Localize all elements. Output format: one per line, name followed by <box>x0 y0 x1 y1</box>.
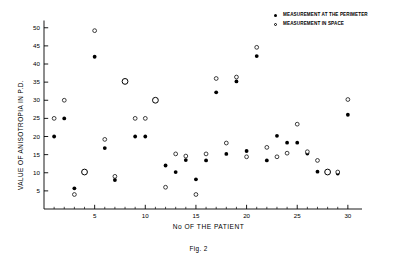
data-point-space <box>224 141 228 145</box>
y-axis-tick-label: 35 <box>18 78 40 85</box>
x-axis-title: No OF THE PATIENT <box>10 223 397 230</box>
x-axis-tick-label: 30 <box>338 212 358 219</box>
data-point-space <box>336 170 340 174</box>
data-point-perimeter <box>62 116 66 120</box>
data-point-perimeter <box>295 141 299 145</box>
y-axis-tick-label: 50 <box>18 24 40 31</box>
data-point-perimeter <box>164 164 168 168</box>
y-axis-tick-label: 15 <box>18 151 40 158</box>
data-point-space <box>143 116 147 120</box>
data-point-space <box>316 159 320 163</box>
data-point-space <box>184 154 188 158</box>
data-point-space <box>194 193 198 197</box>
y-axis-tick-label: 10 <box>18 169 40 176</box>
scatter-plot <box>0 0 397 278</box>
data-point-space <box>174 152 178 156</box>
data-point-space <box>52 116 56 120</box>
data-point-perimeter <box>113 178 117 182</box>
data-point-space <box>133 116 137 120</box>
data-point-space <box>122 79 128 85</box>
data-point-perimeter <box>224 152 228 156</box>
series-space <box>52 29 350 197</box>
figure-caption: Fig. 2 <box>0 245 397 252</box>
data-point-space <box>346 98 350 102</box>
legend-item-space: MEASUREMENT IN SPACE <box>274 20 394 29</box>
data-point-space <box>113 174 117 178</box>
data-point-space <box>93 29 97 33</box>
x-axis-tick-label: 15 <box>186 212 206 219</box>
data-point-perimeter <box>93 55 97 59</box>
data-point-space <box>103 138 107 142</box>
open-circle-icon <box>274 23 283 26</box>
data-point-space <box>62 98 66 102</box>
series-perimeter <box>52 54 350 190</box>
data-point-perimeter <box>214 90 218 94</box>
data-point-perimeter <box>204 159 208 163</box>
data-point-perimeter <box>103 146 107 150</box>
data-point-perimeter <box>245 149 249 153</box>
data-point-space <box>82 169 88 175</box>
y-axis-tick-label: 5 <box>18 187 40 194</box>
legend-label-space: MEASUREMENT IN SPACE <box>283 21 344 28</box>
x-axis-tick-label: 5 <box>85 212 105 219</box>
y-axis-tick-label: 30 <box>18 96 40 103</box>
data-point-space <box>285 151 289 155</box>
data-point-perimeter <box>133 135 137 139</box>
data-point-space <box>295 122 299 126</box>
data-point-space <box>275 155 279 159</box>
data-point-space <box>164 185 168 189</box>
data-point-perimeter <box>174 170 178 174</box>
data-point-perimeter <box>275 134 279 138</box>
data-point-space <box>204 152 208 156</box>
data-point-space <box>255 45 259 49</box>
data-point-perimeter <box>346 113 350 117</box>
data-point-perimeter <box>72 186 76 190</box>
data-point-space <box>305 150 309 154</box>
data-point-perimeter <box>143 135 147 139</box>
data-point-space <box>235 75 239 79</box>
x-axis-tick-label: 10 <box>135 212 155 219</box>
data-point-space <box>153 97 159 103</box>
y-axis-tick-label: 25 <box>18 114 40 121</box>
figure-container: MEASUREMENT AT THE PERIMETER MEASUREMENT… <box>0 0 397 278</box>
data-point-space <box>214 77 218 81</box>
chart-legend: MEASUREMENT AT THE PERIMETER MEASUREMENT… <box>274 11 394 29</box>
y-axis-tick-label: 20 <box>18 133 40 140</box>
data-point-space <box>245 155 249 159</box>
x-axis-tick-label: 25 <box>287 212 307 219</box>
data-point-perimeter <box>316 170 320 174</box>
data-point-perimeter <box>194 177 198 181</box>
data-point-perimeter <box>52 135 56 139</box>
legend-item-perimeter: MEASUREMENT AT THE PERIMETER <box>274 11 394 20</box>
data-point-perimeter <box>285 141 289 145</box>
data-point-perimeter <box>265 159 269 163</box>
data-point-space <box>265 145 269 149</box>
y-axis-tick-label: 45 <box>18 42 40 49</box>
data-point-perimeter <box>235 80 239 84</box>
data-point-space <box>72 193 76 197</box>
data-point-perimeter <box>255 54 259 58</box>
legend-label-perimeter: MEASUREMENT AT THE PERIMETER <box>283 12 368 19</box>
axis-spines <box>44 21 362 210</box>
data-point-space <box>325 169 331 175</box>
y-axis-tick-label: 40 <box>18 60 40 67</box>
x-axis-tick-label: 20 <box>237 212 257 219</box>
filled-circle-icon <box>274 14 283 17</box>
data-point-perimeter <box>184 158 188 162</box>
